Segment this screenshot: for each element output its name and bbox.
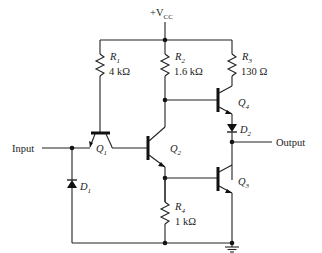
resistor-r3: [228, 40, 236, 86]
junction-r4-bottom: [163, 241, 168, 246]
diode-d2: [227, 114, 237, 180]
ground-icon: [225, 243, 239, 252]
resistor-r2: [161, 40, 169, 100]
r1-label: R1: [109, 51, 120, 65]
r4-label: R4: [174, 201, 185, 215]
resistor-r4: [161, 178, 169, 243]
diode-d1: [67, 148, 77, 243]
transistor-q2: [148, 100, 165, 202]
transistor-q4: [218, 86, 232, 114]
input-label: Input: [12, 143, 34, 154]
r3-value: 130 Ω: [241, 66, 267, 77]
ttl-nand-circuit: +VCC R1 4 kΩ R2 1.6 kΩ R3 130 Ω Q1 Input: [0, 0, 322, 253]
r4-value: 1 kΩ: [175, 216, 196, 227]
q2-label: Q2: [170, 143, 182, 157]
r2-value: 1.6 kΩ: [174, 66, 203, 77]
resistor-r1: [96, 40, 104, 132]
d1-label: D1: [79, 181, 91, 195]
r1-value: 4 kΩ: [109, 66, 130, 77]
vcc-label: +VCC: [150, 7, 173, 21]
r2-label: R2: [174, 51, 185, 65]
output-label: Output: [276, 137, 305, 148]
q1-label: Q1: [96, 143, 107, 157]
transistor-q3: [218, 165, 232, 243]
q3-label: Q3: [238, 176, 250, 190]
d2-label: D2: [239, 124, 252, 138]
q4-label: Q4: [238, 97, 250, 111]
r3-label: R3: [241, 51, 252, 65]
